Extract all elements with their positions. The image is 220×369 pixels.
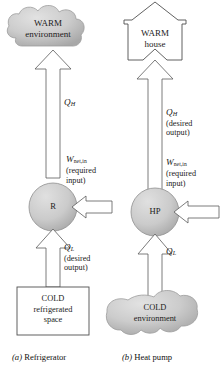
warm-house-label: WARM house <box>125 28 185 49</box>
ql-label-refrigerator: QL (desired output) <box>64 243 90 272</box>
cold-space-line3: space <box>17 315 89 326</box>
work-subscript-heatpump: net,in <box>174 161 187 167</box>
work-note1-heatpump: (required <box>166 169 196 178</box>
qh-note1-heatpump: (desired <box>166 119 192 128</box>
work-input-arrow-refrigerator <box>72 196 112 218</box>
cold-space-line1: COLD <box>17 294 89 305</box>
refrigerator-device-label: R <box>33 201 73 212</box>
qh-subscript-refrigerator: H <box>71 100 75 107</box>
work-note2-heatpump: input) <box>166 179 196 188</box>
qh-subscript-heatpump: H <box>173 110 177 117</box>
work-symbol-refrigerator: W <box>66 154 74 164</box>
heatpump-device-label: HP <box>135 206 175 217</box>
qh-label-heatpump: QH (desired output) <box>166 108 192 137</box>
qh-note2-heatpump: output) <box>166 128 192 137</box>
cold-environment-label: COLD environment <box>113 303 197 324</box>
ql-note2-refrigerator: output) <box>64 263 90 272</box>
caption-letter-refrigerator: (a) <box>12 352 22 362</box>
work-label-refrigerator: Wnet,in (required input) <box>66 155 96 185</box>
warm-house-line1: WARM <box>125 28 185 39</box>
thermodynamics-figure: WARM environment QH Wnet,in (required in… <box>0 0 220 369</box>
ql-symbol-heatpump: Q <box>166 246 173 256</box>
qh-label-refrigerator: QH <box>64 98 75 109</box>
qh-symbol-line-heatpump: QH <box>166 108 192 119</box>
work-symbol-line-refrigerator: Wnet,in <box>66 155 96 166</box>
ql-subscript-refrigerator: L <box>71 245 74 252</box>
cold-environment-line2: environment <box>113 314 197 325</box>
work-input-arrow-heatpump <box>174 201 219 223</box>
warm-environment-line1: WARM <box>8 18 88 29</box>
work-subscript-refrigerator: net,in <box>74 158 87 164</box>
ql-label-heatpump: QL <box>166 247 176 258</box>
ql-subscript-heatpump: L <box>173 249 176 256</box>
work-note2-refrigerator: input) <box>66 176 96 185</box>
caption-letter-heatpump: (b) <box>122 352 132 362</box>
work-symbol-line-heatpump: Wnet,in <box>166 158 196 169</box>
caption-heatpump: (b) Heat pump <box>122 352 172 362</box>
heatpump-device-letters: HP <box>150 206 161 216</box>
warm-environment-line2: environment <box>8 29 88 40</box>
warm-house-line2: house <box>125 39 185 50</box>
caption-refrigerator: (a) Refrigerator <box>12 352 66 362</box>
qh-symbol-heatpump: Q <box>166 107 173 117</box>
warm-environment-label: WARM environment <box>8 18 88 39</box>
work-label-heatpump: Wnet,in (required input) <box>166 158 196 188</box>
refrigerator-device-letter: R <box>50 201 56 211</box>
ql-symbol-refrigerator: Q <box>64 242 71 252</box>
ql-note1-refrigerator: (desired <box>64 254 90 263</box>
cold-refrigerated-space-label: COLD refrigerated space <box>17 294 89 326</box>
cold-space-line2: refrigerated <box>17 305 89 316</box>
ql-symbol-line-refrigerator: QL <box>64 243 90 254</box>
qh-symbol-refrigerator: Q <box>64 97 71 107</box>
work-note1-refrigerator: (required <box>66 166 96 175</box>
cold-environment-line1: COLD <box>113 303 197 314</box>
work-symbol-heatpump: W <box>166 157 174 167</box>
caption-text-refrigerator: Refrigerator <box>24 352 66 362</box>
caption-text-heatpump: Heat pump <box>134 352 172 362</box>
